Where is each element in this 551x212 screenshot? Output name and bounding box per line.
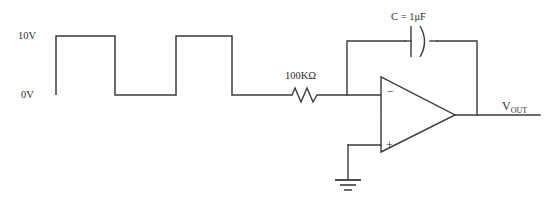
output-voltage-label-main: V <box>502 99 511 113</box>
output-voltage-label: VOUT <box>502 99 527 115</box>
waveform-low-label: 0V <box>21 89 34 100</box>
opamp-noninverting-input-sign: + <box>386 138 393 152</box>
resistor-label: 100KΩ <box>285 70 316 81</box>
operational-amplifier-group: − + <box>381 77 540 152</box>
input-square-wave <box>56 36 288 95</box>
ground-group <box>335 145 381 190</box>
capacitor-plate-curved <box>420 26 425 57</box>
output-voltage-label-subscript: OUT <box>511 106 528 115</box>
waveform-high-label: 10V <box>18 30 37 41</box>
feedback-capacitor-group: C = 1μF <box>391 11 437 57</box>
input-waveform-group <box>56 36 288 95</box>
wire-feedback-right-branch <box>437 41 477 115</box>
op-amp-integrator-schematic: 10V 0V 100KΩ C = 1μF − + VOUT <box>0 0 551 212</box>
resistor-symbol <box>288 88 347 102</box>
ground-bars <box>335 180 361 190</box>
input-resistor-group: 100KΩ <box>285 70 347 102</box>
capacitor-label: C = 1μF <box>391 11 426 22</box>
opamp-inverting-input-sign: − <box>387 84 394 98</box>
